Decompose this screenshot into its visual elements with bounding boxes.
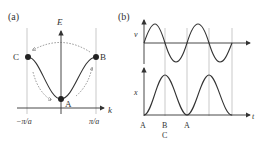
tick-pi-over-a: π/a (89, 117, 99, 126)
k-axis-label: k (108, 105, 113, 115)
point-c (25, 54, 31, 60)
point-b-label: B (100, 52, 106, 62)
time-label-a-2: A (184, 121, 190, 130)
t-axis-label: t (252, 112, 255, 121)
panel-a: (a) E k −π/a π/a C B A (8, 11, 113, 126)
bloch-oscillation-diagram: (a) E k −π/a π/a C B A (b) (0, 0, 255, 148)
point-c-label: C (13, 52, 19, 62)
point-a-label: A (65, 99, 72, 109)
energy-axis-label: E (56, 17, 63, 27)
time-label-b: B (162, 121, 167, 130)
point-b (93, 54, 99, 60)
point-a (58, 96, 64, 102)
panel-a-label: (a) (8, 11, 19, 23)
tick-minus-pi-over-a: −π/a (16, 117, 32, 126)
position-curve (144, 75, 232, 115)
panel-b-label: (b) (118, 11, 130, 23)
time-label-a-1: A (140, 121, 146, 130)
x-axis-label: x (133, 88, 138, 97)
time-label-c: C (162, 131, 167, 140)
path-arrow-a-to-b (76, 68, 92, 96)
v-axis-label: v (134, 30, 138, 39)
bragg-reflection-arrow (33, 42, 90, 52)
panel-b: (b) v x t A B C A (118, 11, 255, 140)
band-curve (28, 57, 96, 99)
